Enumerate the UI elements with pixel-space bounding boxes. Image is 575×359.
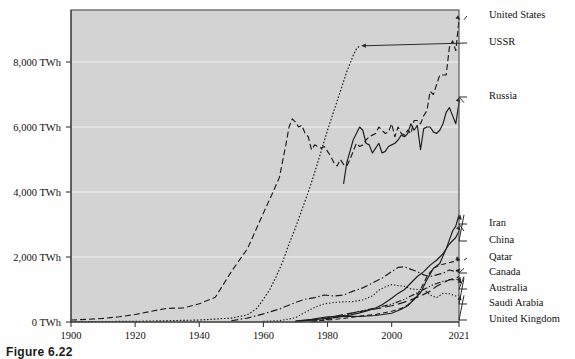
plot-background: [71, 10, 459, 322]
y-tick-label: 0 TWh: [32, 317, 62, 328]
x-tick-label: 1900: [61, 330, 82, 341]
x-tick-label: 2021: [449, 330, 470, 341]
y-tick-label: 4,000 TWh: [13, 187, 61, 198]
figure-caption: Figure 6.22: [6, 345, 73, 359]
x-tick-label: 1920: [125, 330, 146, 341]
annotation-label-united-kingdom: United Kingdom: [489, 313, 560, 324]
annotation-leader-qatar: [464, 258, 467, 260]
y-tick-label: 6,000 TWh: [13, 122, 61, 133]
annotation-label-united-states: United States: [489, 9, 545, 20]
y-axis: 0 TWh2,000 TWh4,000 TWh6,000 TWh8,000 TW…: [13, 10, 71, 328]
annotation-label-china: China: [489, 234, 514, 245]
annotation-label-australia: Australia: [489, 282, 528, 293]
annotation-label-canada: Canada: [489, 266, 521, 277]
annotation-label-russia: Russia: [489, 90, 517, 101]
annotation-label-saudi-arabia: Saudi Arabia: [489, 297, 544, 308]
y-tick-label: 8,000 TWh: [13, 57, 61, 68]
annotation-label-qatar: Qatar: [489, 251, 513, 262]
x-tick-label: 1980: [317, 330, 338, 341]
x-tick-label: 1940: [189, 330, 210, 341]
x-tick-label: 1960: [253, 330, 274, 341]
y-tick-label: 2,000 TWh: [13, 252, 61, 263]
x-tick-label: 2000: [381, 330, 402, 341]
annotation-label-iran: Iran: [489, 217, 507, 228]
annotation-label-ussr: USSR: [489, 36, 515, 47]
x-axis: 1900192019401960198020002021: [61, 322, 470, 341]
annotation-leader-united-states: [464, 16, 467, 20]
